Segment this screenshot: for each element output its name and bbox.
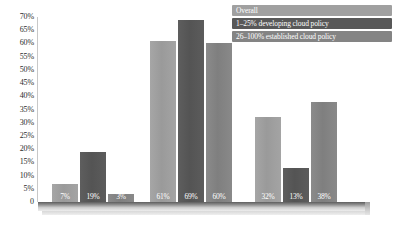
- base-platform-right-cap: [365, 202, 370, 215]
- y-axis-tick-label: 45%: [0, 79, 34, 87]
- y-axis-tick-label: 5%: [0, 185, 34, 193]
- legend-item[interactable]: 1–25% developing cloud policy: [232, 18, 392, 29]
- bar: 60%: [206, 43, 232, 202]
- x-axis-base-platform: [38, 202, 370, 215]
- y-axis-tick-label: 50%: [0, 66, 34, 74]
- y-axis-tick-label: 25%: [0, 132, 34, 140]
- bar: 69%: [178, 20, 204, 202]
- legend-item-label: 26–100% established cloud policy: [236, 32, 336, 41]
- bar-value-label: 60%: [206, 193, 232, 201]
- base-platform-front: [42, 211, 370, 215]
- bar: 7%: [52, 184, 78, 203]
- legend-item-label: Overall: [236, 6, 258, 15]
- y-axis-tick-label: 40%: [0, 92, 34, 100]
- y-axis-tick-label: 65%: [0, 26, 34, 34]
- bar-value-label: 69%: [178, 193, 204, 201]
- bar: 32%: [255, 117, 281, 202]
- bar-value-label: 13%: [283, 193, 309, 201]
- bar-chart: 70%65%60%55%50%45%40%35%30%25%20%15%10%5…: [0, 0, 396, 233]
- legend: Overall1–25% developing cloud policy26–1…: [232, 5, 392, 44]
- y-axis-tick-label: 0: [0, 198, 34, 206]
- y-axis-tick-label: 20%: [0, 145, 34, 153]
- base-platform-top: [38, 202, 370, 211]
- bar-value-label: 38%: [311, 193, 337, 201]
- bar-value-label: 19%: [80, 193, 106, 201]
- legend-item[interactable]: 26–100% established cloud policy: [232, 31, 392, 42]
- bar: 13%: [283, 168, 309, 202]
- bar: 38%: [311, 102, 337, 202]
- bar-value-label: 32%: [255, 193, 281, 201]
- legend-item-label: 1–25% developing cloud policy: [236, 19, 329, 28]
- bar-value-label: 7%: [52, 193, 78, 201]
- y-axis-tick-label: 60%: [0, 39, 34, 47]
- y-axis-tick-label: 35%: [0, 106, 34, 114]
- y-axis-tick-label: 15%: [0, 158, 34, 166]
- y-axis-tick-label: 30%: [0, 119, 34, 127]
- bar: 19%: [80, 152, 106, 202]
- y-axis-tick-label: 55%: [0, 53, 34, 61]
- bar-value-label: 3%: [108, 193, 134, 201]
- bar-value-label: 61%: [150, 193, 176, 201]
- bar: 61%: [150, 41, 176, 202]
- bar: 3%: [108, 194, 134, 202]
- legend-item[interactable]: Overall: [232, 5, 392, 16]
- y-axis-tick-label: 70%: [0, 13, 34, 21]
- plot-area: 7%19%3%61%69%60%32%13%38%: [38, 17, 390, 202]
- y-axis: 70%65%60%55%50%45%40%35%30%25%20%15%10%5…: [0, 0, 34, 233]
- y-axis-tick-label: 10%: [0, 172, 34, 180]
